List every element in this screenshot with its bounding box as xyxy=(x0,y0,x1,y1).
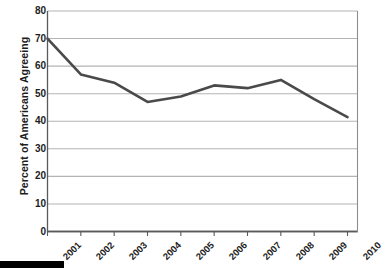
gridlines xyxy=(48,11,358,232)
x-axis-tick-marks xyxy=(48,232,348,237)
data-series-line xyxy=(48,39,348,118)
scan-artifact-bar xyxy=(0,261,64,268)
